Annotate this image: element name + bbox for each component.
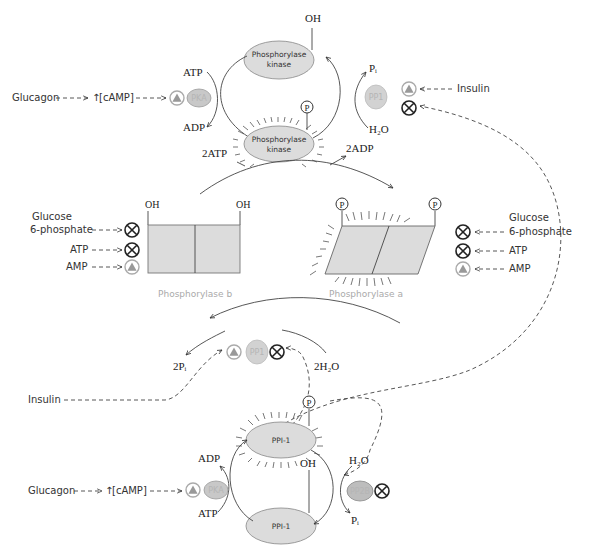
insulin-arrow bbox=[64, 350, 222, 400]
inhibitor-icon bbox=[375, 484, 389, 498]
h2o-label: H₂O bbox=[349, 454, 369, 466]
regulator-label: 6-phosphate bbox=[509, 226, 572, 237]
regulator-label: ATP bbox=[509, 245, 527, 256]
activator-icon bbox=[125, 260, 139, 274]
glucagon-label: Glucagon bbox=[28, 485, 75, 496]
adp-label: ADP bbox=[183, 121, 205, 133]
inhibitor-icon bbox=[125, 243, 139, 257]
h2o-label: H₂O bbox=[369, 123, 389, 135]
atp-branch bbox=[237, 162, 245, 166]
glycogen-phosphorylase-regulation-diagram: OH Phosphorylase kinase ATP ADP PKA Gluc… bbox=[0, 0, 594, 551]
inhibitor-icon bbox=[456, 225, 470, 239]
regulator-label: AMP bbox=[66, 261, 88, 272]
2pi-label: 2Pᵢ bbox=[173, 360, 187, 372]
atp-label: ATP bbox=[198, 507, 218, 519]
phosphorylation-arc bbox=[200, 160, 393, 194]
enzyme-label-line2: kinase bbox=[267, 60, 292, 69]
inhibitor-icon bbox=[456, 244, 470, 258]
2h2o-label: 2H₂O bbox=[314, 360, 339, 372]
glucagon-label: Glucagon bbox=[12, 92, 59, 103]
atp-label: ATP bbox=[183, 66, 203, 78]
pka-label: PKA bbox=[208, 486, 224, 495]
phosphorylase-a-caption: Phosphorylase a bbox=[329, 289, 403, 299]
phosphate-label: P bbox=[432, 200, 437, 210]
camp-label: [cAMP] bbox=[112, 485, 147, 496]
phosphate-label: P bbox=[304, 103, 309, 113]
oh-group-label: OH bbox=[305, 12, 321, 24]
inhibitor-icon bbox=[402, 101, 416, 115]
camp-label: [cAMP] bbox=[99, 92, 134, 103]
enzyme-label-line1: Phosphorylase bbox=[252, 50, 307, 59]
dephosphorylation-arrow bbox=[313, 57, 340, 138]
phosphorylase-b: OH OH Phosphorylase b bbox=[145, 199, 250, 299]
h2o-branch bbox=[282, 330, 326, 353]
phosphorylase-b-caption: Phosphorylase b bbox=[158, 289, 232, 299]
phosphorylase-kinase-inactive: OH Phosphorylase kinase bbox=[244, 12, 321, 79]
oh-group-label: OH bbox=[236, 199, 250, 210]
inhibitor-icon bbox=[270, 345, 284, 359]
activator-icon bbox=[227, 345, 241, 359]
middle-cycle: 2ATP 2ADP OH OH Phosphorylase b bbox=[28, 142, 572, 405]
ppi1-label: PPI-1 bbox=[272, 522, 291, 531]
pp1-label: PP1 bbox=[369, 93, 384, 102]
phosphorylation-arrow bbox=[230, 440, 253, 521]
regulator-label: Glucose bbox=[509, 212, 549, 223]
pka-label: PKA bbox=[191, 94, 207, 103]
phosphate-label: P bbox=[306, 398, 311, 408]
pp2b-label: PP2B bbox=[350, 487, 370, 496]
ppi1-inactive: OH PPI-1 bbox=[246, 457, 316, 544]
pp1-label: PP1 bbox=[250, 348, 265, 357]
phosphorylase-kinase-active: P Phosphorylase kinase bbox=[233, 101, 324, 167]
phosphorylase-a: P P Phosphorylase a bbox=[310, 198, 441, 299]
enzyme-label-line1: Phosphorylase bbox=[252, 135, 307, 144]
adp-label: ADP bbox=[198, 452, 220, 464]
pi-label: Pᵢ bbox=[369, 62, 377, 74]
insulin-label: Insulin bbox=[28, 394, 61, 405]
regulator-label: ATP bbox=[70, 244, 88, 255]
bottom-cycle: P PPI-1 OH PPI-1 ADP ATP PKA Glucagon ↑ … bbox=[28, 396, 389, 544]
oh-group-label: OH bbox=[300, 457, 316, 469]
2adp-label: 2ADP bbox=[346, 142, 374, 154]
inhibitor-icon bbox=[125, 223, 139, 237]
adp-branch bbox=[330, 156, 346, 165]
regulator-label: 6-phosphate bbox=[30, 224, 93, 235]
activator-icon bbox=[456, 262, 470, 276]
insulin-label: Insulin bbox=[457, 83, 490, 94]
phosphate-label: P bbox=[339, 200, 344, 210]
right-regulators: Glucose 6-phosphate ATP AMP bbox=[456, 212, 572, 276]
left-regulators: Glucose 6-phosphate ATP AMP bbox=[30, 211, 139, 274]
dephosphorylation-arc bbox=[210, 298, 400, 323]
enzyme-label-line2: kinase bbox=[267, 145, 292, 154]
2atp-label: 2ATP bbox=[202, 147, 227, 159]
regulator-label: Glucose bbox=[32, 211, 72, 222]
pi-label: Pᵢ bbox=[351, 514, 359, 526]
regulator-label: AMP bbox=[509, 263, 531, 274]
activator-icon bbox=[170, 91, 184, 105]
oh-group-label: OH bbox=[145, 199, 159, 210]
ppi1-label: PPI-1 bbox=[272, 436, 291, 445]
pi-branch bbox=[186, 331, 225, 355]
top-cycle: OH Phosphorylase kinase ATP ADP PKA Gluc… bbox=[12, 12, 490, 167]
activator-icon bbox=[186, 483, 200, 497]
activator-icon bbox=[402, 82, 416, 96]
ppi1-inhibits-pp1-arrow bbox=[286, 348, 309, 425]
